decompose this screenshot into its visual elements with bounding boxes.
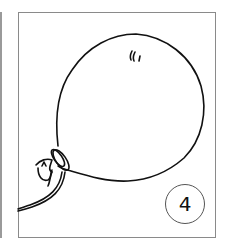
step-number: 4 <box>179 192 192 216</box>
step-number-badge: 4 <box>165 184 205 224</box>
